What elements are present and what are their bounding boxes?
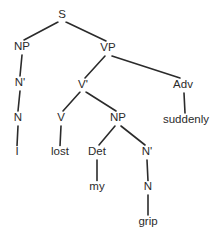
tree-edge-S-to-VP <box>66 22 106 41</box>
tree-node-lost: lost <box>50 146 70 158</box>
tree-node-Vbar: V' <box>77 79 89 91</box>
tree-edge-Vbar-to-V <box>63 92 80 111</box>
tree-edge-VP-to-Adv <box>112 56 180 78</box>
syntax-tree-diagram: SNPVPN'V'AdvNVNPsuddenlyIlostDetN'myNgri… <box>0 0 222 240</box>
tree-edge-S-to-NP1 <box>24 22 58 40</box>
tree-node-I: I <box>14 146 19 158</box>
tree-node-NP2: NP <box>109 112 127 124</box>
tree-edge-NP1-to-Nbar1 <box>20 55 22 76</box>
tree-edge-Vbar-to-NP2 <box>86 92 116 111</box>
tree-node-Adv: Adv <box>172 79 194 91</box>
tree-node-my: my <box>88 181 105 193</box>
tree-edge-Adv-to-suddenly <box>184 93 185 113</box>
tree-node-N2: N <box>143 181 153 193</box>
tree-node-Det: Det <box>87 146 107 158</box>
tree-edge-Nbar1-to-N1 <box>18 91 20 111</box>
tree-edge-NP2-to-Nbar2 <box>121 126 145 145</box>
tree-edge-Nbar2-to-N2 <box>147 160 148 181</box>
tree-node-grip: grip <box>137 216 158 228</box>
tree-node-VP: VP <box>99 42 116 54</box>
tree-node-suddenly: suddenly <box>162 114 210 126</box>
tree-node-N1: N <box>13 112 23 124</box>
tree-edge-NP2-to-Det <box>99 126 115 145</box>
tree-node-Nbar2: N' <box>141 146 154 158</box>
tree-node-S: S <box>57 9 67 21</box>
tree-node-Nbar1: N' <box>14 77 27 89</box>
tree-edge-N1-to-I <box>17 126 18 146</box>
tree-node-NP1: NP <box>13 41 31 53</box>
tree-edge-V-to-lost <box>60 126 61 146</box>
tree-node-V: V <box>56 112 66 124</box>
tree-edge-VP-to-Vbar <box>85 56 105 78</box>
